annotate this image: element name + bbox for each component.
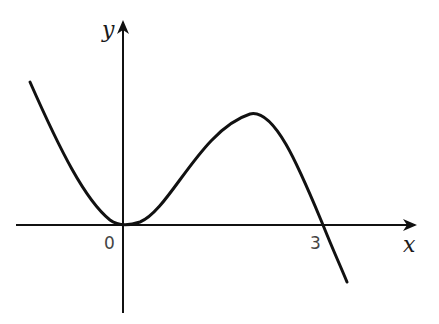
function-curve [30, 82, 347, 282]
y-axis-label: y [101, 17, 115, 42]
function-graph: y x 0 3 [0, 0, 439, 324]
root-label-3: 3 [310, 233, 321, 253]
x-axis-label: x [403, 232, 416, 257]
origin-label: 0 [104, 233, 115, 253]
